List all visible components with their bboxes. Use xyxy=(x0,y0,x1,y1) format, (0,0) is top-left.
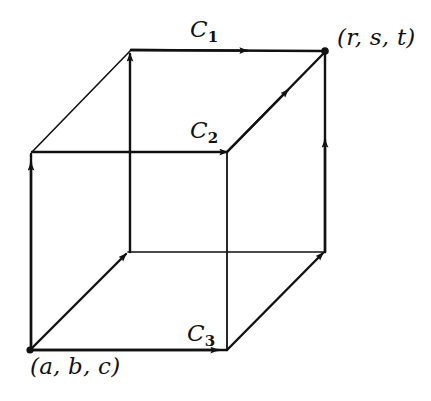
point-label-end: (r, s, t) xyxy=(337,26,416,49)
curve-label-c3-base: C xyxy=(187,320,205,346)
c1-top-edge-arrow xyxy=(131,50,247,51)
c3-diagonal xyxy=(227,253,323,350)
curve-label-c2-base: C xyxy=(190,117,208,143)
cube-line-art xyxy=(0,0,431,401)
vertex-dot-end xyxy=(321,47,329,55)
curve-label-c3-subscript: 3 xyxy=(205,332,216,350)
cube-diagram: C1 C2 C3 (r, s, t) (a, b, c) xyxy=(0,0,431,401)
curve-label-c1: C1 xyxy=(190,18,218,41)
edge-bottomleft-diagonal xyxy=(30,254,126,350)
curve-label-c2-subscript: 2 xyxy=(208,129,219,147)
curve-label-c1-base: C xyxy=(190,16,208,42)
c2-diagonal-arrow xyxy=(227,90,288,152)
curve-label-c3: C3 xyxy=(187,322,215,345)
point-label-start: (a, b, c) xyxy=(30,355,120,378)
edge-topleft-diagonal xyxy=(32,50,131,152)
curve-label-c2: C2 xyxy=(190,119,218,142)
curve-label-c1-subscript: 1 xyxy=(208,28,219,46)
